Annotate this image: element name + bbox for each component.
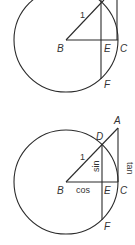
label-f-bottom: F: [104, 221, 111, 232]
label-c-bottom: C: [120, 185, 128, 196]
label-a-bottom: A: [113, 115, 121, 126]
label-b-bottom: B: [57, 185, 64, 196]
label-c-top: C: [120, 43, 128, 54]
label-e-bottom: E: [104, 185, 111, 196]
label-e-top: E: [104, 43, 111, 54]
label-radius-top: 1: [80, 10, 85, 20]
label-sin: sin: [91, 160, 101, 172]
label-b-top: B: [57, 43, 64, 54]
bottom-figure: [14, 128, 118, 234]
trig-unit-circle-diagrams: B E C F 1 A D B E C F 1 cos sin tan: [0, 0, 135, 245]
label-radius-bottom: 1: [80, 152, 85, 162]
label-f-top: F: [104, 79, 111, 90]
label-cos: cos: [76, 185, 91, 195]
radius-line-bd-top: [66, 3, 101, 40]
label-d-bottom: D: [96, 131, 103, 142]
label-tan: tan: [125, 162, 135, 175]
top-figure: [14, 0, 118, 92]
unit-circle-top: [14, 0, 118, 92]
